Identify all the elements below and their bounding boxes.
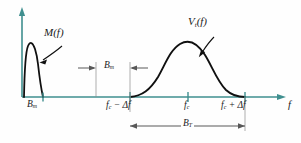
- fc-lower-delta: − Δf: [111, 100, 130, 110]
- bt-subscript: T: [189, 122, 192, 128]
- total-bandwidth-label: BT: [181, 119, 194, 129]
- baseband-bm-subscript: m: [33, 103, 37, 109]
- tick-label-fc-plus-delta-f: fc + Δf: [221, 101, 246, 111]
- baseband-bandwidth-label: Bm: [27, 100, 37, 110]
- message-spectrum-text: M(f): [44, 26, 64, 38]
- figure-canvas: [0, 0, 301, 143]
- message-bandwidth-label: Bm: [104, 61, 114, 71]
- message-spectrum-curve: [24, 43, 43, 97]
- message-spectrum-label: M(f): [44, 27, 64, 38]
- vt-argument: (f): [197, 15, 207, 27]
- f-axis-text: f: [288, 99, 291, 110]
- fc-upper-delta: + Δf: [226, 100, 245, 110]
- tick-label-fc-minus-delta-f: fc − Δf: [106, 101, 131, 111]
- transmitted-spectrum-curve: [130, 42, 245, 97]
- tick-label-fc: fc: [184, 101, 189, 111]
- spectrum-figure: M(f) Vt(f) Bm Bm fc − Δf fc fc + Δf BT f: [0, 0, 301, 143]
- mf-callout-leader: [40, 46, 63, 64]
- frequency-axis: [22, 94, 286, 100]
- frequency-axis-label: f: [288, 100, 291, 111]
- transmitted-spectrum-label: Vt(f): [188, 16, 207, 28]
- bm-subscript: m: [110, 64, 114, 70]
- vtf-callout-leader: [199, 37, 214, 57]
- vt-symbol: V: [188, 15, 195, 27]
- fc-subscript: c: [187, 104, 190, 110]
